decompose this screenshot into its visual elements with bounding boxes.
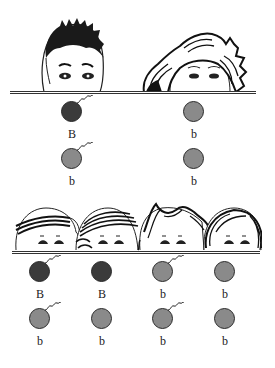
sperm-tail-icon [77, 95, 93, 105]
recessive-egg-icon [183, 148, 204, 169]
allele-label: b [174, 174, 214, 188]
allele-label: b [52, 174, 92, 188]
recessive-egg-icon [91, 308, 112, 329]
sperm-tail-icon [45, 255, 61, 265]
parent-gamete-father-2: b [52, 148, 92, 188]
parents-shelf-line [10, 91, 256, 94]
recessive-egg-icon [183, 101, 204, 122]
parent-gamete-father-1: B [52, 101, 92, 141]
child-gamete: b [205, 308, 245, 348]
father-figure [38, 18, 108, 92]
children-faces-icon [12, 202, 262, 252]
children-shelf-line [12, 251, 260, 254]
child-gamete: b [20, 308, 60, 348]
mother-figure [140, 30, 252, 92]
sperm-tail-icon [77, 142, 93, 152]
child-gamete: b [143, 308, 183, 348]
child-gamete: b [205, 261, 245, 301]
allele-label: B [52, 127, 92, 141]
child-gamete: B [82, 261, 122, 301]
father-face-icon [38, 18, 108, 92]
children-figures [12, 202, 262, 252]
allele-label: B [20, 287, 60, 301]
allele-label: b [174, 127, 214, 141]
recessive-egg-icon [214, 261, 235, 282]
allele-label: b [205, 287, 245, 301]
parent-gamete-mother-2: b [174, 148, 214, 188]
child-gamete: b [143, 261, 183, 301]
child-gamete: B [20, 261, 60, 301]
allele-label: b [82, 334, 122, 348]
recessive-egg-icon [214, 308, 235, 329]
allele-label: b [205, 334, 245, 348]
sperm-tail-icon [45, 302, 61, 312]
parent-gamete-mother-1: b [174, 101, 214, 141]
dominant-egg-icon [91, 261, 112, 282]
sperm-tail-icon [168, 255, 184, 265]
child-gamete: b [82, 308, 122, 348]
allele-label: B [82, 287, 122, 301]
allele-label: b [143, 287, 183, 301]
sperm-tail-icon [168, 302, 184, 312]
mother-face-icon [140, 30, 252, 92]
allele-label: b [20, 334, 60, 348]
allele-label: b [143, 334, 183, 348]
